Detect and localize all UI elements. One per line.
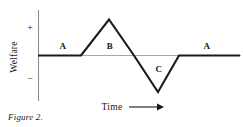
figure-container: + − Welfare A B C A Time Figure 2. <box>0 0 243 127</box>
y-axis-label: Welfare <box>9 41 19 72</box>
segment-label-b: B <box>107 41 113 51</box>
segment-label-a-second: A <box>204 41 211 51</box>
segment-label-c: C <box>156 64 163 74</box>
x-axis-arrow-head <box>157 104 164 111</box>
figure-caption: Figure 2. <box>7 112 43 122</box>
x-axis-label: Time <box>102 102 123 112</box>
segment-label-a-first: A <box>60 41 67 51</box>
y-tick-negative: − <box>27 73 33 84</box>
welfare-time-chart: + − Welfare A B C A Time Figure 2. <box>0 0 243 127</box>
y-tick-positive: + <box>27 22 33 33</box>
